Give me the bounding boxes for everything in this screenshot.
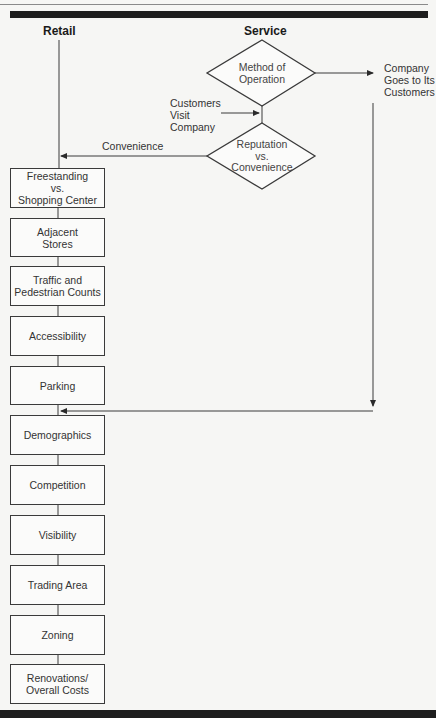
step-adjacent-stores: Adjacent Stores: [10, 218, 105, 257]
label-convenience: Convenience: [102, 140, 163, 152]
step-competition: Competition: [10, 465, 105, 505]
label-company-goes-to-customers: Company Goes to Its Customers: [384, 62, 435, 98]
step-zoning: Zoning: [10, 615, 105, 655]
label-customers-visit-company: Customers Visit Company: [170, 97, 221, 133]
step-visibility: Visibility: [10, 515, 105, 555]
step-freestanding-vs-shopping-center: Freestanding vs. Shopping Center: [10, 168, 105, 208]
step-trading-area: Trading Area: [10, 565, 105, 605]
step-demographics: Demographics: [10, 415, 105, 455]
bottom-bar: [0, 710, 436, 718]
decision-method-of-operation: Method of Operation: [222, 62, 302, 85]
retail-heading: Retail: [43, 24, 76, 38]
step-parking: Parking: [10, 366, 105, 405]
decision-reputation-vs-convenience: Reputation vs. Convenience: [222, 139, 302, 174]
step-accessibility: Accessibility: [10, 316, 105, 356]
step-renovations-overall-costs: Renovations/ Overall Costs: [10, 664, 105, 704]
step-traffic-and-pedestrian-counts: Traffic and Pedestrian Counts: [10, 266, 105, 306]
service-heading: Service: [244, 24, 287, 38]
